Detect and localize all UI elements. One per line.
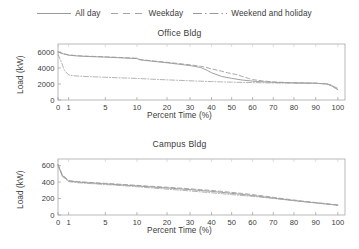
y-tick-label: 0 bbox=[50, 211, 54, 220]
legend-label-all-day: All day bbox=[75, 9, 100, 18]
series-line bbox=[58, 165, 338, 205]
chart-panel-office-bldg: Office Bldg Load (kW) 015102030405060708… bbox=[0, 22, 359, 132]
x-axis-label-office: Percent Time (%) bbox=[0, 111, 359, 120]
y-tick-label: 4000 bbox=[38, 64, 55, 73]
line-swatch-dashed-icon bbox=[111, 9, 145, 18]
y-tick-label: 6000 bbox=[38, 48, 55, 57]
legend-entry-weekend-and-holiday: Weekend and holiday bbox=[193, 9, 312, 18]
figure: All day Weekday Weekend and holiday Offi… bbox=[0, 0, 359, 249]
plot-area-office-bldg: 0151020304050607080901000200040006000 bbox=[0, 22, 359, 122]
axes-frame bbox=[58, 44, 345, 100]
line-swatch-solid-icon bbox=[37, 9, 71, 18]
y-tick-label: 600 bbox=[42, 161, 55, 170]
series-line bbox=[58, 166, 338, 206]
series-line bbox=[58, 52, 338, 90]
legend-label-weekend-and-holiday: Weekend and holiday bbox=[231, 9, 312, 18]
x-axis-label-campus: Percent Time (%) bbox=[0, 226, 359, 235]
y-tick-label: 2000 bbox=[38, 80, 55, 89]
axes-frame bbox=[58, 159, 345, 215]
chart-legend: All day Weekday Weekend and holiday bbox=[0, 4, 359, 22]
y-tick-label: 0 bbox=[50, 96, 54, 105]
y-tick-label: 200 bbox=[42, 194, 55, 203]
y-tick-label: 400 bbox=[42, 178, 55, 187]
chart-panel-campus-bldg: Campus Bldg Load (kW) 015102030405060708… bbox=[0, 133, 359, 249]
line-swatch-dashdot-icon bbox=[193, 9, 227, 18]
series-line bbox=[58, 54, 338, 89]
legend-label-weekday: Weekday bbox=[149, 9, 184, 18]
legend-entry-all-day: All day bbox=[37, 9, 100, 18]
plot-area-campus-bldg: 0151020304050607080901000200400600 bbox=[0, 133, 359, 237]
series-line bbox=[58, 164, 338, 205]
legend-entry-weekday: Weekday bbox=[111, 9, 184, 18]
